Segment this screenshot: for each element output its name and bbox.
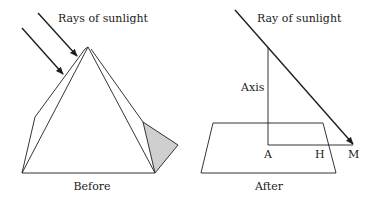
pyramid-shadow [143,122,178,173]
point-m-label: M [348,148,359,161]
point-h-label: H [315,148,325,161]
sun-ray-arrow-2 [22,28,63,74]
before-ray-label: Rays of sunlight [58,12,149,25]
after-diagram: Ray of sunlight Axis A H M After [201,10,359,193]
sunlight-diagram: Rays of sunlight Before Ray of sunlight … [0,0,375,199]
after-caption: After [254,180,284,193]
after-ray-label: Ray of sunlight [257,12,342,25]
point-a-label: A [263,148,273,161]
pyramid [22,47,155,173]
axis-label: Axis [240,81,265,94]
sun-ray-arrow [235,10,353,144]
before-caption: Before [73,180,110,193]
before-diagram: Rays of sunlight Before [22,12,178,193]
